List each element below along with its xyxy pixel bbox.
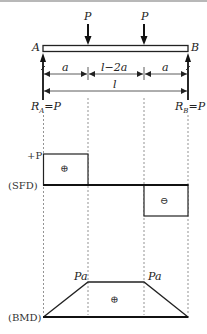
bmd-label: (BMD): [8, 312, 42, 323]
bmd-peak-label-right: Pa: [147, 270, 161, 283]
sfd-label: (SFD): [8, 180, 38, 191]
reaction-label-right: RB=P: [174, 100, 206, 115]
sfd-positive-sign-icon: ⊕: [60, 163, 68, 174]
sfd-negative-sign-icon: ⊖: [160, 195, 168, 206]
support-label-a: A: [31, 41, 40, 54]
reaction-arrow-left-icon: [40, 53, 46, 100]
load-arrow-left-icon: [85, 24, 92, 45]
load-label-left: P: [83, 10, 92, 23]
beam: [43, 46, 188, 52]
dim-label-a-right: a: [162, 61, 169, 74]
dim-label-a-left: a: [62, 61, 69, 74]
reaction-label-left: RA=P: [30, 100, 62, 115]
support-label-b: B: [190, 41, 199, 54]
load-arrow-right-icon: [141, 24, 148, 45]
load-label-right: P: [140, 10, 149, 23]
dim-label-total: l: [113, 78, 117, 91]
bmd-positive-sign-icon: ⊕: [110, 294, 118, 305]
sfd-max-label: +P: [27, 150, 42, 161]
beam-diagram: P P A B a l−2a a l RA=P RB=P: [0, 0, 207, 334]
dim-label-middle: l−2a: [101, 61, 127, 74]
reaction-arrow-right-icon: [185, 53, 191, 100]
bmd-peak-label-left: Pa: [73, 270, 87, 283]
